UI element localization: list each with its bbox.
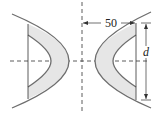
hyperbola-diagram: 50 d xyxy=(0,0,157,115)
dimension-50-label: 50 xyxy=(105,16,117,30)
arrow-left-icon xyxy=(83,21,88,25)
left-band xyxy=(28,24,69,99)
dimension-d-label: d xyxy=(143,45,150,59)
arrow-down-icon xyxy=(144,94,148,99)
arrow-up-icon xyxy=(144,24,148,29)
